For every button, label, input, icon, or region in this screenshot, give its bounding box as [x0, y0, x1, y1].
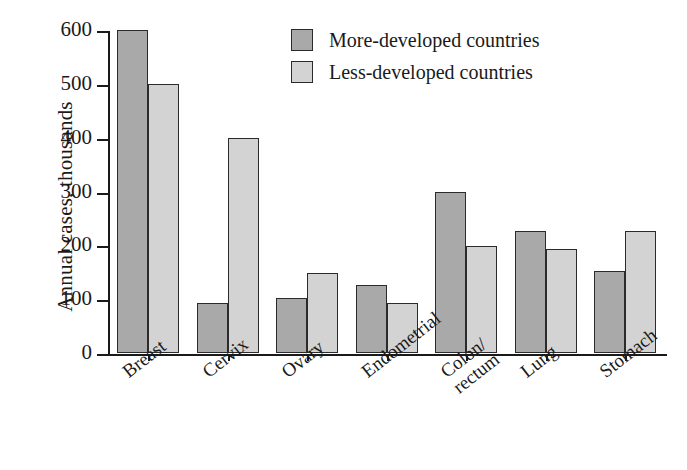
y-tick-label: 300: [61, 179, 93, 204]
chart-legend: More-developed countriesLess-developed c…: [291, 24, 539, 88]
y-tick-label: 600: [61, 17, 93, 42]
legend-swatch-icon: [291, 29, 313, 51]
bar-group: [197, 30, 259, 353]
bar: [435, 192, 466, 354]
y-tick-mark: [97, 139, 110, 141]
y-tick-mark: [97, 354, 110, 356]
bar-chart: Annual cases, thousands 0100200300400500…: [0, 0, 687, 470]
y-tick-mark: [97, 31, 110, 33]
y-tick-label: 500: [61, 71, 93, 96]
bar-group: [594, 30, 656, 353]
bar: [148, 84, 179, 353]
legend-label: More-developed countries: [329, 29, 539, 52]
y-tick-mark: [97, 193, 110, 195]
bar: [356, 285, 387, 353]
y-tick-label: 100: [61, 286, 93, 311]
y-tick-mark: [97, 300, 110, 302]
bar-group: [117, 30, 179, 353]
bar: [228, 138, 259, 353]
legend-swatch-icon: [291, 61, 313, 83]
y-tick-label: 200: [61, 232, 93, 257]
legend-label: Less-developed countries: [329, 61, 533, 84]
bar: [515, 231, 546, 353]
bar: [546, 249, 577, 353]
bar: [594, 271, 625, 353]
y-tick-mark: [97, 85, 110, 87]
y-tick-label: 400: [61, 125, 93, 150]
y-tick-mark: [97, 246, 110, 248]
bar: [117, 30, 148, 353]
legend-item: More-developed countries: [291, 24, 539, 56]
y-tick-label: 0: [82, 340, 93, 365]
legend-item: Less-developed countries: [291, 56, 539, 88]
